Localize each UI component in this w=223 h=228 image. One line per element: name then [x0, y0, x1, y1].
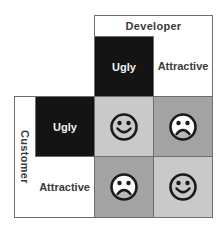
row-header-ugly: Ugly: [35, 96, 95, 157]
column-header-attractive: Attractive: [153, 36, 213, 97]
happy-face-icon: [168, 172, 198, 202]
developer-header: Developer: [94, 15, 213, 37]
row-header-attractive: Attractive: [35, 156, 95, 218]
sad-face-icon: [109, 172, 139, 202]
cell-attractive-ugly: [94, 156, 154, 218]
row-header-ugly-label: Ugly: [53, 121, 77, 133]
cell-ugly-ugly: [94, 96, 154, 157]
sad-face-icon: [168, 112, 198, 142]
customer-header: Customer: [14, 96, 36, 218]
customer-header-label: Customer: [19, 130, 31, 184]
developer-header-label: Developer: [126, 20, 182, 32]
cell-attractive-attractive: [153, 156, 213, 218]
column-header-ugly: Ugly: [94, 36, 154, 97]
happy-face-icon: [109, 112, 139, 142]
column-header-ugly-label: Ugly: [112, 61, 136, 73]
cell-ugly-attractive: [153, 96, 213, 157]
row-header-attractive-label: Attractive: [39, 181, 90, 193]
column-header-attractive-label: Attractive: [158, 60, 209, 72]
